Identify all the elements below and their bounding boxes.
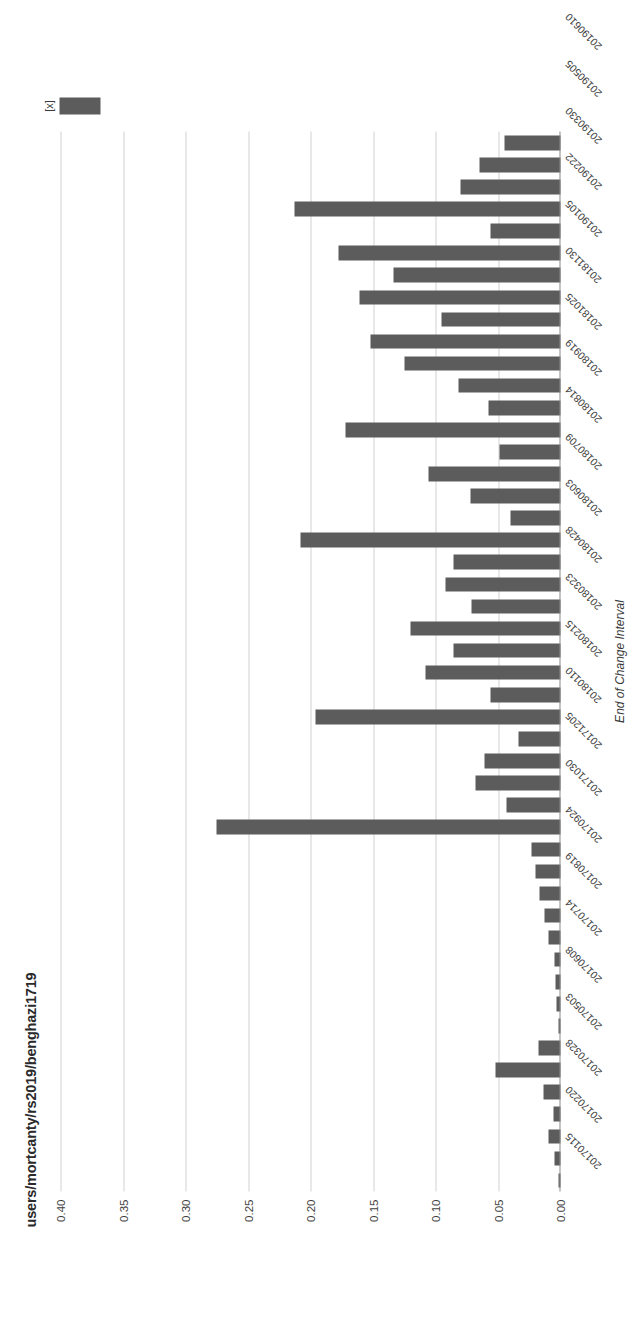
value-axis-tick-label: 0.15 [367, 1199, 379, 1221]
bar[interactable] [445, 577, 560, 592]
bar-slot [60, 948, 560, 970]
bar[interactable] [453, 555, 561, 570]
bar[interactable] [490, 687, 560, 702]
value-axis-tick-label: 0.35 [117, 1199, 129, 1221]
bar-slot [60, 131, 560, 153]
bar-slot [60, 882, 560, 904]
bar[interactable] [345, 422, 560, 437]
category-axis-tick-label: 20180709 [562, 431, 604, 473]
plot-area [60, 131, 560, 1191]
bar-slot [60, 396, 560, 418]
value-axis-tick-label: 0.00 [554, 1199, 566, 1221]
bar[interactable] [488, 400, 561, 415]
category-axis-title: End of Change Interval [612, 131, 626, 1191]
bar-slot [60, 926, 560, 948]
bars-layer [60, 131, 560, 1191]
bar-chart-figure: users/mortcanty/rs2019/benghazi1719 [x] … [0, 0, 641, 1319]
bar-slot [60, 462, 560, 484]
bar[interactable] [441, 312, 560, 327]
bar-slot [60, 816, 560, 838]
bar-slot [60, 175, 560, 197]
value-axis-tick-label: 0.20 [304, 1199, 316, 1221]
category-axis-tick-label: 20170924 [562, 804, 604, 846]
bar-slot [60, 1059, 560, 1081]
bar-slot [60, 1014, 560, 1036]
bar-slot [60, 374, 560, 396]
bar-slot [60, 440, 560, 462]
bar-slot [60, 772, 560, 794]
bar[interactable] [294, 201, 560, 216]
bar[interactable] [518, 731, 561, 746]
bar-slot [60, 617, 560, 639]
bar[interactable] [470, 488, 560, 503]
bar[interactable] [370, 334, 560, 349]
bar-slot [60, 683, 560, 705]
bar-slot [60, 330, 560, 352]
bar-slot [60, 794, 560, 816]
bar[interactable] [535, 864, 560, 879]
category-axis-tick-label: 20170503 [562, 990, 604, 1032]
bar[interactable] [484, 753, 560, 768]
bar[interactable] [458, 378, 561, 393]
bar[interactable] [425, 665, 560, 680]
bar-slot [60, 485, 560, 507]
bar[interactable] [453, 643, 561, 658]
bar[interactable] [548, 930, 561, 945]
bar[interactable] [359, 290, 560, 305]
bar[interactable] [393, 267, 561, 282]
category-axis-tick-label: 20180919 [562, 337, 604, 379]
bar[interactable] [544, 908, 560, 923]
category-axis-tick-label: 20170328 [562, 1037, 604, 1079]
bar-slot [60, 418, 560, 440]
bar[interactable] [338, 245, 561, 260]
bar[interactable] [539, 886, 560, 901]
bar[interactable] [510, 510, 560, 525]
bar[interactable] [538, 1040, 561, 1055]
category-axis-tick-label: 20181025 [562, 290, 604, 332]
bar-slot [60, 507, 560, 529]
bar[interactable] [404, 356, 560, 371]
bar[interactable] [475, 775, 560, 790]
bar-slot [60, 308, 560, 330]
category-axis-tick-label: 20170714 [562, 897, 604, 939]
bar[interactable] [543, 1084, 561, 1099]
bar[interactable] [495, 1062, 560, 1077]
category-axis-tick-label: 20190505 [562, 58, 604, 100]
category-axis-tick-label: 20180215 [562, 617, 604, 659]
category-axis-tick-label: 20180814 [562, 384, 604, 426]
bar-slot [60, 639, 560, 661]
bar-slot [60, 1036, 560, 1058]
category-axis-tick-label: 20170115 [562, 1131, 603, 1172]
category-axis-tick-label: 20180428 [562, 524, 604, 566]
bar[interactable] [548, 1129, 561, 1144]
axis-baseline [559, 131, 560, 1191]
bar-slot [60, 860, 560, 882]
bar-slot [60, 838, 560, 860]
category-axis-tick-label: 20190330 [562, 104, 604, 146]
bar[interactable] [471, 599, 560, 614]
bar[interactable] [506, 797, 560, 812]
bar-slot [60, 904, 560, 926]
bar[interactable] [499, 444, 560, 459]
bar-slot [60, 705, 560, 727]
bar[interactable] [531, 842, 560, 857]
bar[interactable] [479, 157, 560, 172]
bar[interactable] [300, 532, 560, 547]
category-axis-tick-label: 20171030 [562, 757, 604, 799]
bar[interactable] [410, 621, 560, 636]
bar-slot [60, 595, 560, 617]
bar[interactable] [428, 466, 561, 481]
bar[interactable] [490, 223, 560, 238]
bar[interactable] [460, 179, 560, 194]
chart-canvas: users/mortcanty/rs2019/benghazi1719 [x] … [0, 0, 641, 1319]
bar-slot [60, 197, 560, 219]
category-axis-tick-label: 20171205 [562, 710, 604, 752]
bar[interactable] [315, 709, 560, 724]
bar-slot [60, 220, 560, 242]
page-title: users/mortcanty/rs2019/benghazi1719 [22, 972, 38, 1227]
bar[interactable] [504, 135, 560, 150]
bar-slot [60, 264, 560, 286]
bar-slot [60, 1125, 560, 1147]
bar-slot [60, 727, 560, 749]
bar[interactable] [216, 819, 560, 834]
